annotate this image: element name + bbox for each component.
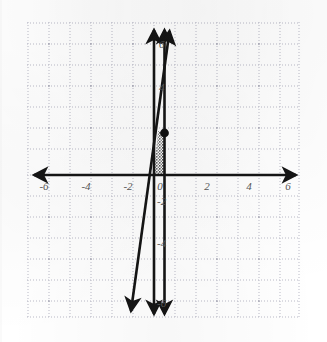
x-tick-label-origin: 0	[157, 180, 163, 192]
intersection-point-marker	[160, 129, 169, 138]
y-tick-label: -6	[157, 297, 167, 309]
y-tick-label: -4	[157, 237, 167, 249]
coordinate-plane-figure: -6 -4 -2 0 2 4 6 6 4 -2 -4 -6	[0, 0, 327, 342]
y-tick-label: -2	[157, 195, 167, 207]
x-tick-label: -6	[39, 180, 49, 192]
y-tick-label: 4	[159, 81, 165, 93]
x-tick-label: 4	[246, 180, 252, 192]
x-tick-label: 6	[285, 180, 291, 192]
x-tick-label: 2	[204, 180, 210, 192]
y-tick-label: 6	[159, 38, 165, 50]
graph-canvas: -6 -4 -2 0 2 4 6 6 4 -2 -4 -6	[0, 0, 327, 342]
x-tick-label: -4	[81, 180, 91, 192]
x-tick-label: -2	[123, 180, 133, 192]
